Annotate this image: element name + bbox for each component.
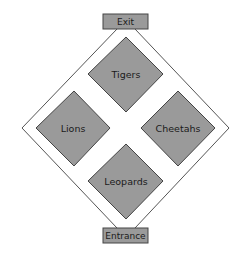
enclosure-leopards-label: Leopards — [104, 176, 147, 187]
zoo-map-diagram: Tigers Lions Cheetahs Leopards Exit Entr… — [0, 0, 240, 256]
entrance-label: Entrance — [105, 231, 146, 241]
entrance-box: Entrance — [103, 228, 148, 243]
enclosure-lions-label: Lions — [61, 123, 86, 134]
enclosure-cheetahs-label: Cheetahs — [156, 123, 201, 134]
enclosure-tigers: Tigers — [88, 37, 163, 112]
enclosure-tigers-label: Tigers — [111, 69, 141, 80]
exit-box: Exit — [103, 14, 148, 29]
enclosure-leopards: Leopards — [88, 144, 163, 219]
exit-label: Exit — [117, 17, 135, 27]
